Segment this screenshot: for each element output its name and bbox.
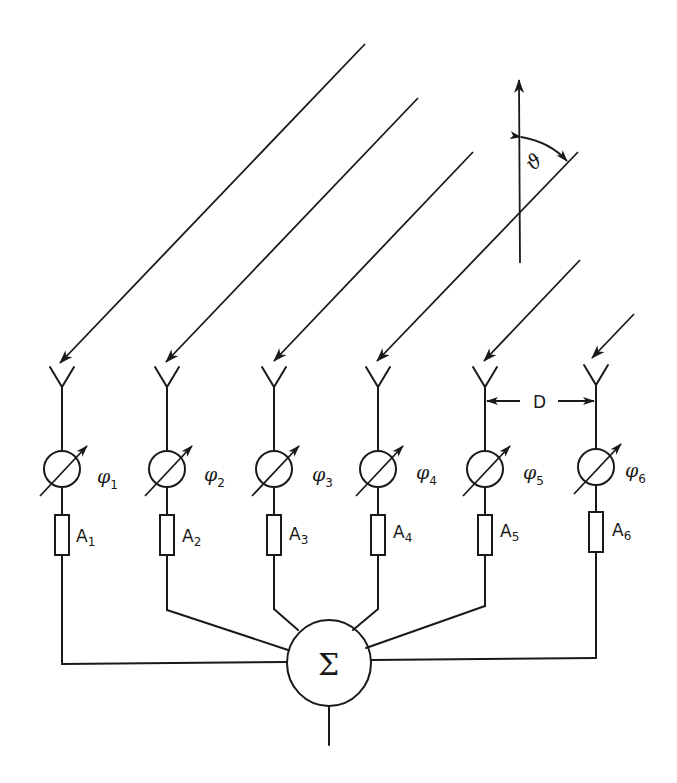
spacing-dimension: D — [487, 392, 594, 412]
amp-label-4: A4 — [393, 522, 412, 545]
ray-arrow-3 — [274, 152, 473, 361]
amp-label-1: A1 — [76, 526, 95, 549]
antenna-element-5 — [463, 367, 510, 606]
antenna-icon — [584, 365, 608, 385]
theta-label: ϑ — [521, 148, 547, 176]
antenna-icon — [155, 367, 179, 387]
phase-shifter-icon — [44, 451, 80, 487]
antenna-icon — [50, 367, 74, 387]
phase-shifter-icon — [149, 451, 185, 487]
antenna-element-2 — [145, 367, 192, 610]
amp-label-3: A3 — [289, 524, 308, 547]
ray-arrow-2 — [166, 98, 418, 362]
amplifier-icon — [371, 515, 385, 555]
phase-label-4: φ4 — [416, 461, 437, 488]
phase-label-6: φ6 — [625, 459, 646, 486]
summer: Σ — [287, 620, 371, 706]
phase-label-2: φ2 — [204, 463, 225, 490]
antenna-icon — [473, 367, 497, 387]
amplifier-icon — [160, 515, 174, 555]
amp-label-5: A5 — [500, 521, 519, 544]
phase-label-5: φ5 — [523, 461, 544, 488]
ray-arrow-1 — [60, 44, 365, 363]
phase-label-1: φ1 — [97, 465, 118, 492]
antenna-element-4 — [356, 367, 403, 609]
ray-arrow-5 — [484, 260, 580, 361]
amplifier-icon — [55, 515, 69, 555]
amplifier-icon — [589, 512, 603, 552]
summer-label: Σ — [318, 647, 339, 682]
antenna-icon — [366, 367, 390, 387]
phase-shifter-icon — [256, 451, 292, 487]
amplifier-icon — [267, 515, 281, 555]
phase-labels: φ1 φ2 φ3 φ4 φ5 φ6 — [97, 459, 646, 492]
antenna-element-1 — [40, 367, 87, 664]
antenna-element-6 — [574, 365, 621, 658]
antenna-icon — [262, 367, 286, 387]
amp-label-6: A6 — [612, 520, 631, 543]
spacing-label: D — [533, 392, 546, 412]
phase-shifter-icon — [360, 451, 396, 487]
phase-label-3: φ3 — [312, 463, 333, 490]
amplifier-icon — [478, 515, 492, 555]
ray-arrow-6 — [592, 314, 634, 358]
antenna-element-3 — [252, 367, 299, 609]
amp-label-2: A2 — [182, 526, 201, 549]
phase-shifter-icon — [467, 451, 503, 487]
phase-shifter-icon — [578, 449, 614, 485]
normal-axis-arrow — [519, 80, 520, 263]
incident-wave-rays — [60, 44, 634, 363]
ray-arrow-4 — [377, 152, 578, 361]
phased-array-diagram: ϑ — [0, 0, 677, 783]
